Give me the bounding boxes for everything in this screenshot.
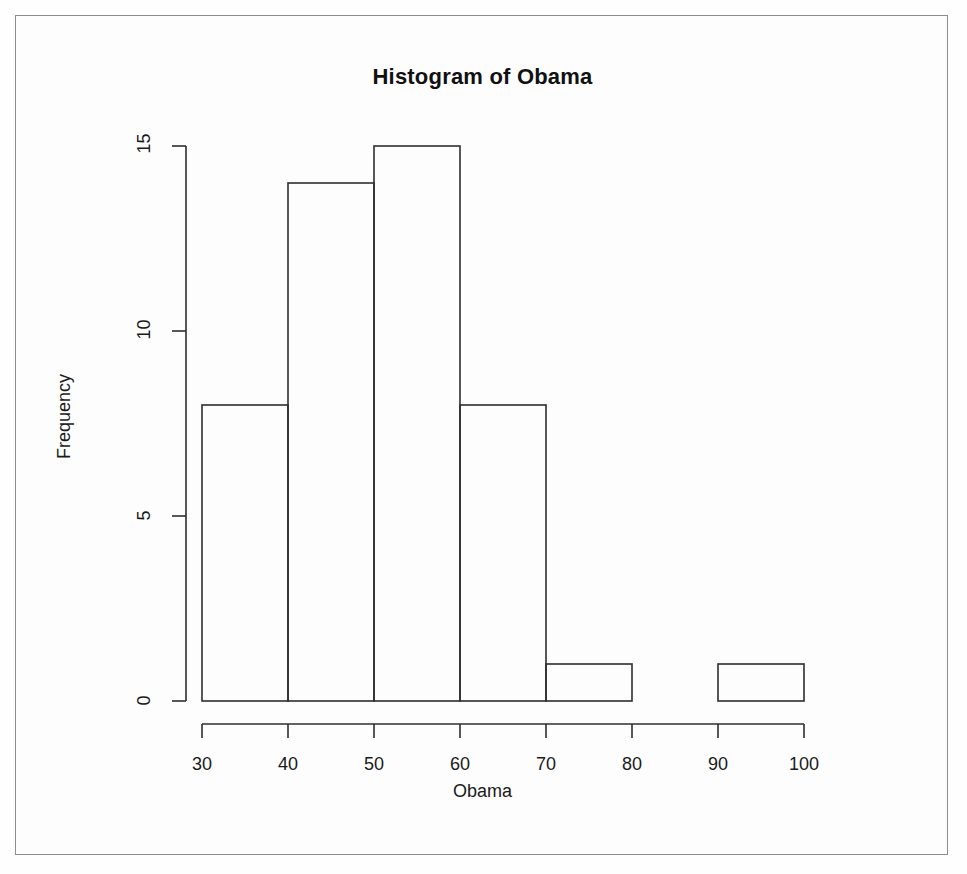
histogram-bar [202, 405, 288, 701]
histogram-bars [202, 146, 804, 701]
histogram-bar [288, 183, 374, 701]
histogram-bar [546, 664, 632, 701]
figure-frame: Histogram of Obama Frequency Obama 30 40… [15, 15, 948, 855]
histogram-svg [16, 16, 949, 856]
histogram-bar [374, 146, 460, 701]
x-axis [202, 724, 804, 738]
histogram-bar [460, 405, 546, 701]
y-axis [172, 146, 186, 701]
histogram-bar [718, 664, 804, 701]
plot-area: Histogram of Obama Frequency Obama 30 40… [16, 16, 949, 856]
screenshot-page: Histogram of Obama Frequency Obama 30 40… [0, 0, 967, 874]
